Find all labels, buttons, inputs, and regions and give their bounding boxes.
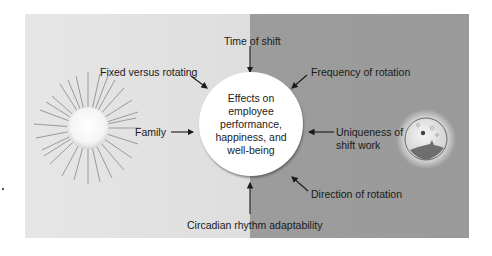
center-line-5: well-being — [206, 144, 296, 157]
label-frequency-of-rotation: Frequency of rotation — [311, 66, 410, 78]
label-time-of-shift: Time of shift — [224, 35, 281, 47]
label-uniqueness-line-2: shift work — [336, 139, 380, 151]
arrow-frequency-of-rotation — [292, 75, 307, 88]
center-line-4: happiness, and — [206, 131, 296, 144]
label-fixed-versus-rotating: Fixed versus rotating — [100, 66, 197, 78]
center-line-3: performance, — [206, 118, 296, 131]
label-direction-of-rotation: Direction of rotation — [311, 188, 402, 200]
label-circadian-rhythm-adaptability: Circadian rhythm adaptability — [187, 219, 322, 231]
center-line-1: Effects on — [206, 92, 296, 105]
label-uniqueness-line-1: Uniqueness of — [336, 126, 403, 138]
arrow-direction-of-rotation — [292, 177, 308, 191]
label-family: Family — [135, 126, 166, 138]
sun-icon — [34, 72, 140, 184]
center-outcome: Effects on employee performance, happine… — [199, 72, 303, 176]
center-line-2: employee — [206, 105, 296, 118]
moon-icon — [396, 109, 456, 169]
